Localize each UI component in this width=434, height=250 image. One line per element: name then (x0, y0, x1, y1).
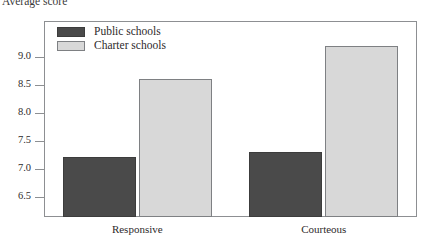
y-axis-tick-label: 9.0 (18, 50, 31, 61)
legend-swatch-public-schools (57, 27, 85, 37)
legend-item: Public schools (57, 25, 166, 38)
chart-legend: Public schoolsCharter schools (57, 25, 166, 53)
legend-item: Charter schools (57, 39, 166, 52)
legend-swatch-charter-schools (57, 41, 85, 51)
x-axis-category-label: Responsive (44, 223, 231, 236)
legend-label: Public schools (94, 25, 161, 38)
legend-label: Charter schools (94, 39, 166, 52)
bar-courteous-public-schools (249, 152, 322, 217)
y-axis-tick-mark (35, 57, 44, 58)
bar-responsive-charter-schools (139, 79, 212, 217)
y-axis-title: Average score (2, 0, 67, 7)
y-axis-tick-label: 6.5 (18, 190, 31, 201)
y-axis-tick-mark (35, 85, 44, 86)
y-axis-tick-mark (35, 141, 44, 142)
y-axis-tick-mark (35, 197, 44, 198)
bar-chart: Average score 6.57.07.58.08.59.0 Respons… (0, 0, 434, 250)
bar-responsive-public-schools (63, 157, 136, 217)
y-axis-tick-mark (35, 169, 44, 170)
x-axis-category-label: Courteous (231, 223, 418, 236)
y-axis-tick-label: 8.5 (18, 78, 31, 89)
y-axis-tick-label: 7.5 (18, 134, 31, 145)
y-axis-tick-mark (35, 113, 44, 114)
y-axis-tick-label: 7.0 (18, 162, 31, 173)
y-axis-tick-label: 8.0 (18, 106, 31, 117)
bar-courteous-charter-schools (325, 46, 398, 217)
